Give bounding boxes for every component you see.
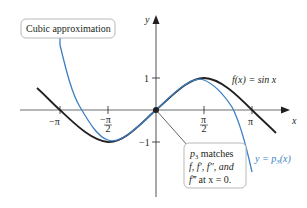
x-axis-arrow-icon [281,107,290,114]
y-tick-label-neg-1: −1 [139,137,150,148]
y-axis-arrow-icon [153,15,160,24]
x-tick-label-pi: π [248,116,253,127]
y-tick-label-1: 1 [144,73,149,84]
x-axis-label: x [291,115,297,126]
cubic-callout-text: Cubic approximation [26,23,111,34]
x-tick-label-neg-half-pi-den: 2 [106,123,111,134]
note-callout: p3 matches f, f′, f″, and f‴ at x = 0. [184,143,246,188]
y-axis-label: y [144,14,150,25]
p3-label: y = p3(x) [254,153,291,166]
sin-label: f(x) = sin x [232,74,277,86]
note-leader-line [156,110,188,146]
note-line-2: f, f′, f″, and [189,161,235,172]
note-line-3: f‴ at x = 0. [189,174,231,185]
x-tick-label-neg-pi: −π [49,116,60,127]
x-tick-label-half-pi-den: 2 [202,123,207,134]
chart: x y −π −π 2 π 2 π 1 −1 Cubic approximati… [0,0,307,208]
cubic-callout: Cubic approximation [21,19,115,38]
